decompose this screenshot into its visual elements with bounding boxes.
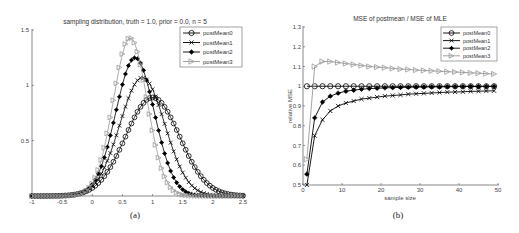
legend-a: postMean0postMean1postMean2postMean3	[180, 27, 242, 67]
legend-item-postMean3: postMean3	[203, 59, 233, 65]
svg-text:1.5: 1.5	[179, 199, 188, 205]
series-postMean1	[305, 89, 496, 187]
svg-text:50: 50	[495, 187, 502, 193]
series-postMean1	[30, 76, 245, 198]
svg-text:0: 0	[301, 187, 305, 193]
series-postMean2	[304, 84, 496, 177]
svg-text:1.3: 1.3	[293, 24, 302, 30]
legend-item-postMean1: postMean1	[203, 40, 233, 46]
legend-b: postMean0postMean1postMean2postMean3	[441, 27, 497, 61]
svg-text:2.5: 2.5	[239, 199, 248, 205]
svg-text:0.6: 0.6	[293, 162, 302, 168]
svg-text:0: 0	[91, 199, 95, 205]
y-axis-label-b: relative MSE	[287, 89, 293, 123]
legend-item-postMean2: postMean2	[463, 45, 490, 51]
series-postMean2	[30, 55, 246, 198]
svg-text:0.8: 0.8	[293, 123, 302, 129]
legend-item-postMean1: postMean1	[463, 38, 490, 44]
svg-text:-0.5: -0.5	[57, 199, 68, 205]
svg-text:1: 1	[26, 82, 30, 88]
chart-title-b: MSE of postmean / MSE of MLE	[353, 15, 447, 23]
x-axis-label-b: sample size	[384, 195, 416, 201]
legend-item-postMean0: postMean0	[463, 30, 490, 36]
legend-item-postMean0: postMean0	[203, 30, 233, 36]
panel-b: MSE of postmean / MSE of MLE 01020304050…	[287, 15, 502, 220]
svg-text:1.5: 1.5	[21, 27, 30, 33]
svg-text:2: 2	[211, 199, 215, 205]
svg-text:0.9: 0.9	[293, 103, 302, 109]
svg-text:0.5: 0.5	[118, 199, 127, 205]
caption-b: (b)	[393, 210, 404, 220]
svg-text:0.7: 0.7	[293, 143, 302, 149]
svg-text:40: 40	[456, 187, 463, 193]
svg-text:0.5: 0.5	[21, 138, 30, 144]
figure-canvas: sampling distribution, truth = 1.0, prio…	[0, 0, 519, 233]
caption-a: (a)	[130, 210, 140, 220]
svg-text:20: 20	[378, 187, 385, 193]
svg-text:-1: -1	[29, 199, 35, 205]
svg-text:1.1: 1.1	[293, 64, 302, 70]
legend-item-postMean2: postMean2	[203, 49, 233, 55]
legend-item-postMean3: postMean3	[463, 53, 490, 59]
figure: sampling distribution, truth = 1.0, prio…	[0, 0, 519, 233]
series-postMean3	[304, 59, 496, 162]
chart-title-a: sampling distribution, truth = 1.0, prio…	[63, 18, 207, 26]
plot-area-b	[304, 59, 496, 187]
panel-a: sampling distribution, truth = 1.0, prio…	[21, 18, 248, 220]
svg-text:10: 10	[339, 187, 346, 193]
series-postMean0	[30, 95, 246, 198]
svg-text:1: 1	[298, 83, 302, 89]
svg-text:30: 30	[417, 187, 424, 193]
svg-text:0.5: 0.5	[293, 182, 302, 188]
svg-text:1.2: 1.2	[293, 44, 302, 50]
svg-text:1: 1	[151, 199, 155, 205]
